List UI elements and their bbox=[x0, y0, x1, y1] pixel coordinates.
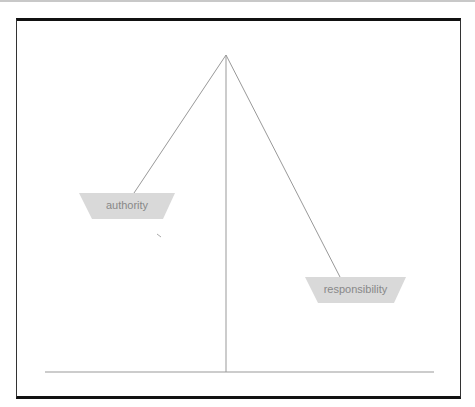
left-arm bbox=[134, 55, 226, 193]
right-pan-label: responsibility bbox=[305, 283, 406, 295]
left-pan-label: authority bbox=[79, 199, 175, 211]
balance-scale-diagram bbox=[0, 0, 475, 407]
tick-mark bbox=[157, 234, 161, 237]
right-arm bbox=[226, 55, 340, 277]
